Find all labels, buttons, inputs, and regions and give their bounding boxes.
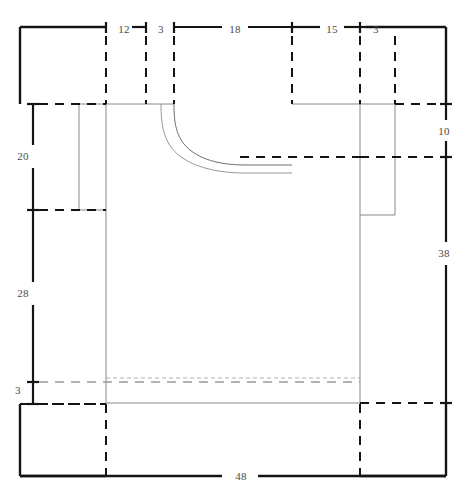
dim-label-bottom-48: 48	[235, 471, 247, 482]
right-sleeve-shading	[358, 102, 398, 218]
dim-label-top-12: 12	[118, 24, 130, 35]
dim-label-left-20: 20	[17, 151, 29, 162]
drawing-canvas	[0, 0, 460, 492]
dim-label-right-38: 38	[438, 248, 450, 259]
dim-label-top-3-left: 3	[158, 24, 164, 35]
hem-rib-texture	[104, 376, 362, 405]
dim-label-top-3-right: 3	[373, 24, 379, 35]
dim-label-right-10: 10	[438, 126, 450, 137]
technical-drawing-sheet: 12 3 18 15 3 20 28 3 10 38 48	[0, 0, 460, 492]
dim-label-left-28: 28	[17, 288, 29, 299]
garment-fabric-texture	[100, 100, 398, 410]
dim-label-top-18: 18	[229, 24, 241, 35]
dim-label-left-3: 3	[15, 385, 21, 396]
dim-label-top-15: 15	[326, 24, 338, 35]
